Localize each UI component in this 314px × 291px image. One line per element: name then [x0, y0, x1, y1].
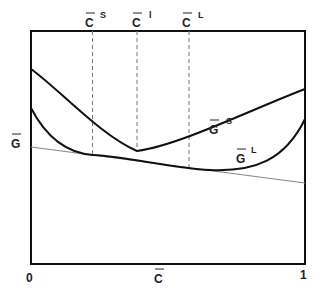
- diagram-canvas: C S C l C L G S G L G 0 C 1: [0, 0, 314, 291]
- svg-text:C: C: [154, 272, 163, 286]
- svg-text:L: L: [198, 10, 204, 20]
- x-axis-max-label: 1: [300, 268, 307, 282]
- marker-ci-label: C l: [132, 10, 152, 30]
- y-axis-label: G: [11, 134, 21, 151]
- marker-cl-label: C L: [182, 10, 204, 30]
- x-axis-label: C: [154, 269, 164, 286]
- curve-gs: [31, 69, 305, 151]
- svg-text:l: l: [149, 10, 152, 20]
- marker-cs-label: C S: [85, 10, 106, 30]
- curve-gs-label: G S: [209, 116, 232, 137]
- svg-text:G: G: [11, 137, 20, 151]
- svg-text:G: G: [209, 123, 218, 137]
- curve-gl: [31, 108, 305, 170]
- svg-text:L: L: [251, 145, 257, 155]
- svg-text:C: C: [182, 16, 191, 30]
- plot-frame: [31, 31, 305, 264]
- x-axis-min-label: 0: [26, 271, 33, 285]
- curve-gl-label: G L: [236, 145, 257, 166]
- svg-text:G: G: [236, 152, 245, 166]
- svg-text:C: C: [132, 16, 141, 30]
- svg-text:S: S: [100, 10, 106, 20]
- svg-text:S: S: [226, 116, 232, 126]
- svg-text:C: C: [85, 16, 94, 30]
